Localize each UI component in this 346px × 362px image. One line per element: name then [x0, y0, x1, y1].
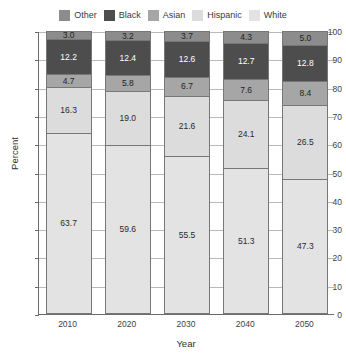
- x-axis-tick-label: 2020: [97, 319, 157, 329]
- legend-label: White: [264, 10, 287, 21]
- bar-segment-value: 24.1: [238, 130, 255, 139]
- legend-swatch-icon: [104, 10, 115, 21]
- bar-segment-asian[interactable]: 4.7: [47, 75, 91, 88]
- legend-entry-asian[interactable]: Asian: [148, 10, 186, 21]
- legend-swatch-icon: [59, 10, 70, 21]
- bar-segment-black[interactable]: 12.2: [47, 40, 91, 74]
- bar-2030[interactable]: 55.521.66.712.63.7: [164, 31, 210, 314]
- bar-segment-value: 12.7: [238, 57, 255, 66]
- legend-entry-white[interactable]: White: [249, 10, 287, 21]
- bar-segment-value: 3.2: [122, 32, 134, 40]
- legend-swatch-icon: [148, 10, 159, 21]
- y-axis-tick: [35, 32, 39, 33]
- bar-segment-other[interactable]: 4.3: [224, 32, 268, 44]
- bar-segment-value: 47.3: [297, 242, 314, 251]
- bar-segment-value: 3.0: [63, 32, 75, 40]
- y-axis-tick: [35, 60, 39, 61]
- y-axis-tick-label: 60: [312, 140, 342, 150]
- bar-segment-hispanic[interactable]: 21.6: [165, 97, 209, 158]
- bar-segment-value: 12.2: [60, 53, 77, 62]
- bar-2040[interactable]: 51.324.17.612.74.3: [223, 31, 269, 314]
- y-axis-tick-label: 30: [312, 225, 342, 235]
- bar-segment-asian[interactable]: 5.8: [106, 76, 150, 92]
- y-axis-tick: [35, 145, 39, 146]
- y-axis-tick: [35, 258, 39, 259]
- y-axis-tick: [35, 287, 39, 288]
- bar-segment-other[interactable]: 3.2: [106, 32, 150, 41]
- y-axis-tick: [35, 89, 39, 90]
- bar-segment-value: 4.3: [240, 33, 252, 42]
- y-axis-tick-label: 100: [312, 27, 342, 37]
- legend-entry-black[interactable]: Black: [104, 10, 141, 21]
- plot-area: 63.716.34.712.23.059.619.05.812.43.255.5…: [39, 32, 334, 314]
- bar-segment-black[interactable]: 12.4: [106, 41, 150, 76]
- bar-segment-value: 6.7: [181, 82, 193, 91]
- bar-segment-value: 3.7: [181, 32, 193, 41]
- y-axis-tick-label: 80: [312, 84, 342, 94]
- plot-frame: 63.716.34.712.23.059.619.05.812.43.255.5…: [38, 32, 334, 315]
- x-axis-tick-labels: 20102020203020402050: [38, 319, 334, 333]
- bar-segment-value: 12.4: [120, 54, 137, 63]
- legend-entry-other[interactable]: Other: [59, 10, 97, 21]
- bar-segment-hispanic[interactable]: 19.0: [106, 92, 150, 145]
- bar-segment-value: 21.6: [179, 122, 196, 131]
- x-axis-tick-label: 2030: [156, 319, 216, 329]
- y-axis-tick: [35, 117, 39, 118]
- chart-legend: OtherBlackAsianHispanicWhite: [0, 6, 346, 24]
- y-axis-tick: [35, 202, 39, 203]
- y-axis-tick: [35, 315, 39, 316]
- bar-segment-value: 59.6: [120, 225, 137, 234]
- bar-segment-hispanic[interactable]: 24.1: [224, 101, 268, 169]
- legend-entry-hispanic[interactable]: Hispanic: [192, 10, 242, 21]
- y-axis-tick: [35, 174, 39, 175]
- y-axis-tick-label: 20: [312, 253, 342, 263]
- bar-segment-other[interactable]: 3.0: [47, 32, 91, 40]
- bar-2020[interactable]: 59.619.05.812.43.2: [105, 31, 151, 314]
- bar-segment-value: 5.0: [299, 34, 311, 43]
- y-axis-tick-label: 10: [312, 282, 342, 292]
- legend-label: Black: [119, 10, 141, 21]
- chart-root: OtherBlackAsianHispanicWhite Percent 63.…: [0, 0, 346, 362]
- bar-segment-white[interactable]: 51.3: [224, 169, 268, 313]
- y-axis-tick-label: 90: [312, 55, 342, 65]
- bar-segment-value: 63.7: [60, 219, 77, 228]
- bar-segment-asian[interactable]: 6.7: [165, 78, 209, 97]
- bar-segment-value: 16.3: [60, 106, 77, 115]
- legend-swatch-icon: [192, 10, 203, 21]
- bar-segment-value: 12.6: [179, 55, 196, 64]
- y-axis-tick-label: 70: [312, 112, 342, 122]
- bar-segment-value: 8.4: [299, 89, 311, 98]
- bar-segment-hispanic[interactable]: 16.3: [47, 88, 91, 134]
- bar-segment-black[interactable]: 12.7: [224, 44, 268, 80]
- x-axis-title: Year: [38, 338, 334, 349]
- x-axis-tick-label: 2040: [215, 319, 275, 329]
- bar-2010[interactable]: 63.716.34.712.23.0: [46, 31, 92, 314]
- x-axis-tick-label: 2050: [274, 319, 334, 329]
- y-axis-title: Percent: [9, 114, 20, 194]
- bar-segment-white[interactable]: 59.6: [106, 146, 150, 313]
- y-axis-tick-label: 40: [312, 197, 342, 207]
- legend-label: Other: [74, 10, 97, 21]
- y-axis-tick: [35, 230, 39, 231]
- y-axis-tick-label: 0: [312, 310, 342, 320]
- bar-segment-white[interactable]: 63.7: [47, 134, 91, 313]
- x-axis-tick-label: 2010: [38, 319, 98, 329]
- bar-segment-value: 55.5: [179, 231, 196, 240]
- bar-segment-value: 51.3: [238, 237, 255, 246]
- y-axis-tick-label: 50: [312, 169, 342, 179]
- bar-segment-value: 7.6: [240, 86, 252, 95]
- bar-segment-black[interactable]: 12.6: [165, 42, 209, 77]
- legend-label: Asian: [163, 10, 186, 21]
- bar-segment-other[interactable]: 3.7: [165, 32, 209, 42]
- bar-segment-value: 19.0: [120, 114, 137, 123]
- bar-segment-value: 5.8: [122, 79, 134, 88]
- legend-swatch-icon: [249, 10, 260, 21]
- bar-segment-white[interactable]: 55.5: [165, 157, 209, 313]
- bar-segment-asian[interactable]: 7.6: [224, 80, 268, 101]
- bar-segment-value: 4.7: [63, 77, 75, 86]
- legend-label: Hispanic: [207, 10, 242, 21]
